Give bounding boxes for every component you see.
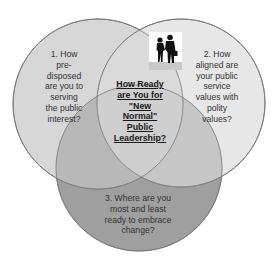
business-people-icon bbox=[149, 32, 182, 70]
label-line: serving bbox=[34, 92, 94, 103]
label-line: polity bbox=[185, 103, 249, 114]
label-line: 3. Where are you bbox=[88, 193, 188, 204]
label-line: aligned are bbox=[185, 60, 249, 71]
label-line: the public bbox=[34, 103, 94, 114]
center-line: Public bbox=[104, 122, 176, 133]
label-line: values with bbox=[185, 92, 249, 103]
center-line: How Ready bbox=[104, 79, 176, 90]
label-line: are you to bbox=[34, 81, 94, 92]
center-line: Normal" bbox=[104, 111, 176, 122]
center-line: "New bbox=[104, 101, 176, 112]
label-line: 2. How bbox=[185, 49, 249, 60]
center-line: are You for bbox=[104, 90, 176, 101]
circle-3-label: 3. Where are you most and least ready to… bbox=[88, 193, 188, 236]
center-line: Leadership? bbox=[104, 133, 176, 144]
label-line: change? bbox=[88, 225, 188, 236]
handshake-image bbox=[149, 32, 182, 70]
circle-1-label: 1. How pre- disposed are you to serving … bbox=[34, 49, 94, 125]
label-line: pre- bbox=[34, 60, 94, 71]
label-line: 1. How bbox=[34, 49, 94, 60]
center-question: How Ready are You for "New Normal" Publi… bbox=[104, 79, 176, 144]
label-line: your public bbox=[185, 71, 249, 82]
label-line: disposed bbox=[34, 71, 94, 82]
label-line: interest? bbox=[34, 114, 94, 125]
label-line: values? bbox=[185, 114, 249, 125]
label-line: service bbox=[185, 81, 249, 92]
circle-2-label: 2. How aligned are your public service v… bbox=[185, 49, 249, 125]
label-line: ready to embrace bbox=[88, 215, 188, 226]
label-line: most and least bbox=[88, 204, 188, 215]
